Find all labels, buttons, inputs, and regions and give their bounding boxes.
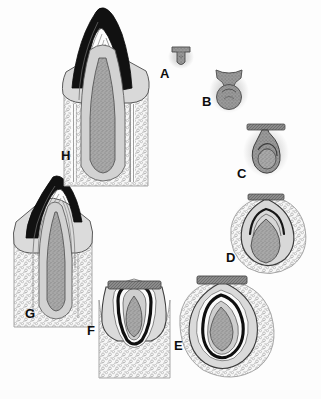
- stage-label-h: H: [61, 149, 70, 162]
- stage-label-e: E: [174, 339, 183, 352]
- stage-label-g: G: [25, 307, 35, 320]
- figure-illustration: [0, 0, 321, 399]
- stage-label-b: B: [202, 95, 211, 108]
- dental-lamina-bar-c: [247, 124, 285, 130]
- stage-label-f: F: [87, 324, 95, 337]
- stage-label-d: D: [226, 251, 235, 264]
- dental-lamina-bar-d: [248, 194, 284, 200]
- figure-footer-band: [0, 390, 321, 399]
- dental-lamina-bar-e: [197, 276, 247, 284]
- dental-lamina-bar-f: [108, 281, 161, 289]
- panel-a-bud-stage: [168, 45, 194, 69]
- panel-f-root-formation: [99, 279, 170, 378]
- stage-label-a: A: [160, 67, 169, 80]
- stage-label-c: C: [237, 167, 246, 180]
- odontogenesis-figure: A B C D E F G H: [0, 0, 321, 399]
